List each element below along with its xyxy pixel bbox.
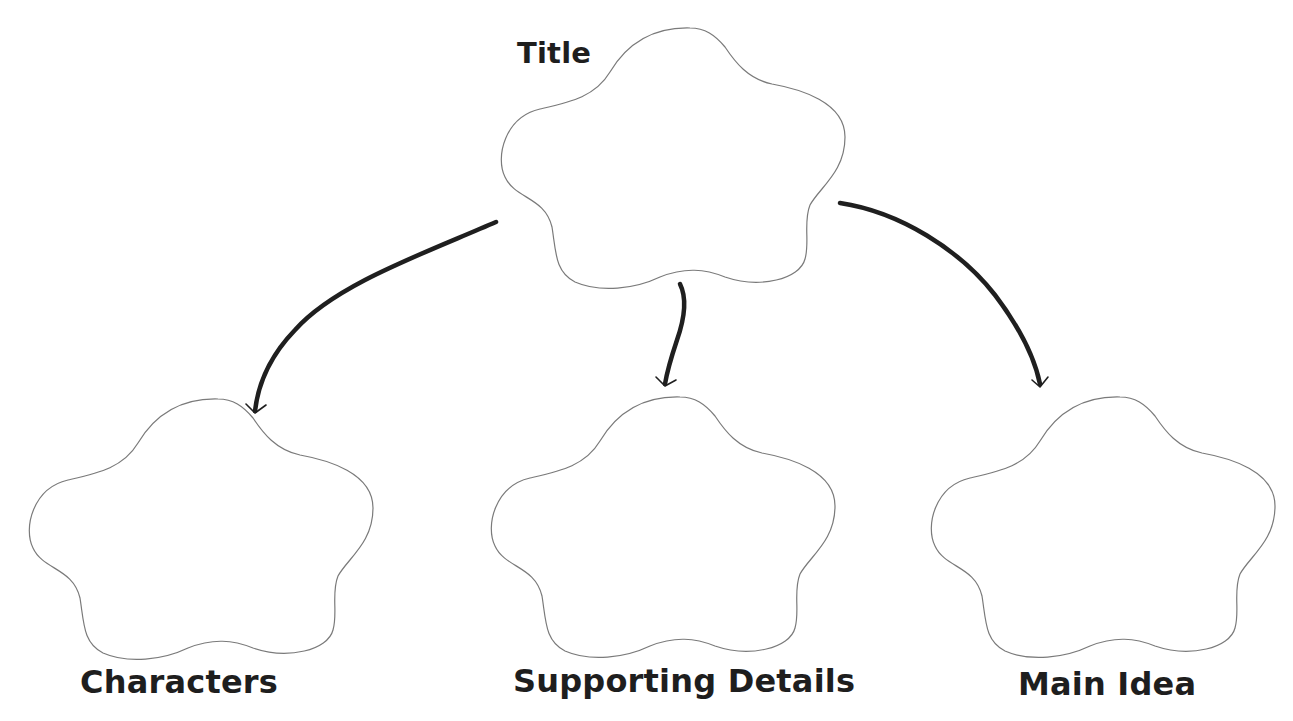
cloud-shape	[28, 398, 373, 662]
graphic-organizer-diagram: Title Characters Supporting Details Main…	[0, 0, 1293, 721]
main-idea-node-label: Main Idea	[1018, 665, 1196, 703]
supporting-details-node-label: Supporting Details	[513, 662, 855, 700]
arrow-to-supporting-details-icon	[656, 284, 684, 386]
cloud-shape	[490, 396, 835, 660]
main-idea-cloud-icon	[930, 396, 1275, 660]
cloud-shape	[930, 396, 1275, 660]
root-node-label: Title	[517, 36, 591, 70]
characters-cloud-icon	[28, 398, 373, 662]
arrow-to-main-idea-icon	[840, 203, 1048, 387]
supporting-details-cloud-icon	[490, 396, 835, 660]
characters-node-label: Characters	[80, 663, 278, 701]
arrow-to-characters-icon	[246, 222, 496, 413]
